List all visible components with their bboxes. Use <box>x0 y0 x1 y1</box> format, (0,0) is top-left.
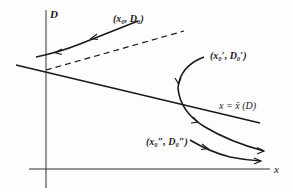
point-1-label: (x₀, D₀) <box>113 14 144 24</box>
point-2-label: (x₀′, D₀′) <box>210 51 246 61</box>
equilibrium-line <box>16 65 260 123</box>
diagram-svg <box>0 0 293 192</box>
trajectory-1 <box>36 21 138 57</box>
dashed-separatrix <box>46 31 184 70</box>
point-3-label: (x₀″, D₀″) <box>146 137 188 147</box>
equilibrium-line-label: x = x̄ (D) <box>219 101 256 111</box>
phase-diagram: D x (x₀, D₀) (x₀′, D₀′) (x₀″, D₀″) x = x… <box>0 0 293 192</box>
x-axis-label: x <box>274 164 279 175</box>
y-axis-label: D <box>50 9 58 20</box>
trajectory-3 <box>190 140 261 161</box>
arrow-icon <box>175 78 181 84</box>
